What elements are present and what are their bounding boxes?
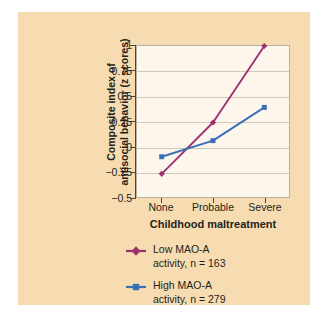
legend-square-marker-icon: [125, 280, 147, 294]
y-axis-tick-labels: 1 0.75 0.5 0.25 0 −0.25 −0.5: [92, 45, 132, 198]
x-tick-label-severe: Severe: [248, 201, 281, 213]
series-high-mao-a: [159, 105, 267, 159]
legend-item-low-mao-a: Low MAO-A activity, n = 163: [125, 243, 305, 270]
y-tick-mark-025: [130, 121, 135, 122]
x-axis-title: Childhood maltreatment: [118, 218, 308, 230]
y-tick-mark-1: [130, 45, 135, 46]
legend-label-low-mao-a-line-1: Low MAO-A: [153, 243, 225, 257]
y-tick-mark-075: [130, 70, 135, 71]
y-tick-label-075: 0.75: [96, 65, 132, 77]
data-point-marker: [262, 105, 267, 110]
figure-panel: Composite index of antisocial behavior (…: [18, 12, 310, 305]
legend-diamond-marker-icon: [125, 244, 147, 258]
y-tick-mark-neg05: [130, 198, 135, 199]
series-low-mao-a: [159, 43, 268, 177]
y-tick-label-0: 0: [96, 141, 132, 153]
series-line: [162, 46, 265, 174]
legend-label-high-mao-a: High MAO-A activity, n = 279: [153, 279, 225, 306]
series-line: [162, 107, 265, 156]
y-tick-mark-05: [130, 96, 135, 97]
data-point-marker: [211, 138, 216, 143]
x-axis-tick-labels: None Probable Severe: [136, 201, 290, 217]
y-tick-label-025: 0.25: [96, 116, 132, 128]
plot-series-svg: [137, 46, 289, 197]
y-axis-title-container: Composite index of antisocial behavior (…: [63, 67, 93, 177]
x-tick-label-probable: Probable: [192, 201, 234, 213]
legend-label-low-mao-a: Low MAO-A activity, n = 163: [153, 243, 225, 270]
legend-label-high-mao-a-line-2: activity, n = 279: [153, 293, 225, 307]
y-tick-label-neg025: −0.25: [96, 166, 132, 178]
legend-label-low-mao-a-line-2: activity, n = 163: [153, 257, 225, 271]
y-tick-label-05: 0.5: [96, 90, 132, 102]
y-tick-label-neg05: −0.5: [96, 192, 132, 204]
chart-legend: Low MAO-A activity, n = 163 High MAO-A a…: [125, 243, 305, 316]
plot-area: [136, 45, 290, 198]
x-tick-label-none: None: [148, 201, 173, 213]
y-tick-label-1: 1: [96, 39, 132, 51]
legend-item-high-mao-a: High MAO-A activity, n = 279: [125, 279, 305, 306]
data-point-marker: [159, 154, 164, 159]
legend-label-high-mao-a-line-1: High MAO-A: [153, 279, 225, 293]
figure-root: Composite index of antisocial behavior (…: [0, 0, 330, 328]
y-tick-mark-neg025: [130, 172, 135, 173]
y-tick-mark-0: [130, 147, 135, 148]
